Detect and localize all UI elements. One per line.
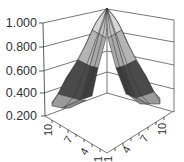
y-axis-labels: 1 4 7 10 [102, 123, 168, 162]
surface-chart: 10 7 4 1 1 4 7 10 1.000 0.800 0.600 0.40… [0, 0, 184, 162]
x-axis-labels: 10 7 4 1 [42, 124, 104, 162]
y-tick-4: 4 [119, 144, 132, 155]
x-tick-7: 7 [61, 134, 74, 145]
x-tick-10: 10 [42, 124, 54, 136]
z-tick-1000: 1.000 [1, 16, 37, 30]
y-tick-1: 1 [102, 156, 114, 162]
surface-right-wing [107, 8, 160, 104]
z-tick-0200: 0.200 [1, 109, 37, 123]
surface-left-wing [52, 8, 107, 108]
z-tick-0600: 0.600 [1, 64, 37, 78]
y-tick-7: 7 [137, 133, 150, 144]
y-tick-10: 10 [156, 123, 168, 135]
floor-axis-ticks [52, 117, 164, 152]
x-tick-4: 4 [77, 146, 90, 157]
z-tick-0400: 0.400 [1, 86, 37, 100]
z-tick-0800: 0.800 [1, 40, 37, 54]
